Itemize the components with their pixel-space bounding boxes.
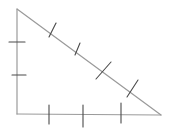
- right-triangle-diagram: [0, 0, 171, 135]
- tick-marks: [9, 23, 138, 127]
- triangle-sides: [17, 9, 161, 115]
- bottom-side: [17, 114, 161, 115]
- triangle-figure: [0, 0, 171, 135]
- hypotenuse: [17, 9, 161, 115]
